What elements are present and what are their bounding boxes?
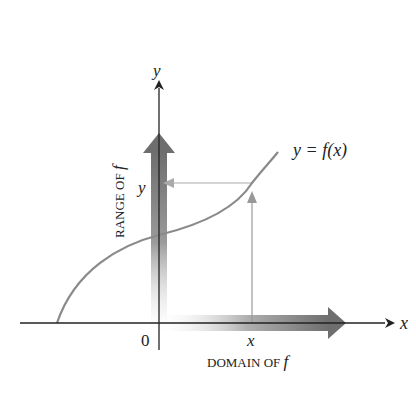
guide-lines bbox=[163, 178, 257, 323]
axes bbox=[20, 80, 395, 350]
x-axis-arrow-icon bbox=[385, 318, 395, 328]
up-arrowhead-icon bbox=[247, 191, 257, 203]
x-point-label: x bbox=[246, 331, 255, 350]
curve-label: y = f(x) bbox=[291, 140, 347, 161]
y-point-label: y bbox=[136, 178, 146, 197]
y-axis-label: y bbox=[151, 61, 161, 80]
function-curve bbox=[57, 152, 278, 323]
svg-text:RANGE OF f: RANGE OF f bbox=[109, 163, 128, 238]
range-label: RANGE OF f bbox=[109, 163, 128, 238]
origin-label: 0 bbox=[141, 331, 150, 350]
domain-label: DOMAIN OF f bbox=[207, 352, 291, 371]
x-axis-label: x bbox=[399, 313, 408, 333]
domain-range-diagram: y x 0 x y y = f(x) RANGE OF f DOMAIN OF … bbox=[0, 0, 416, 393]
